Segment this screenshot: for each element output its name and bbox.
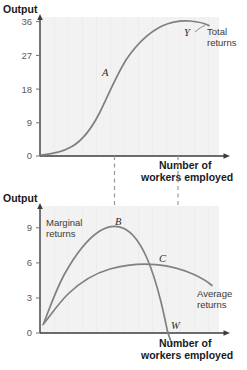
total-returns-label-line2: returns xyxy=(207,37,237,48)
bottom-y-tick-label-6: 6 xyxy=(27,257,32,268)
top-y-tick-label-0: 0 xyxy=(27,150,32,161)
bottom-x-axis-arrow-icon xyxy=(224,330,231,336)
marginal-average-returns-chart: Output 9 6 3 0 Marginal returns Average … xyxy=(3,192,233,361)
average-returns-label-line2: returns xyxy=(197,299,227,310)
returns-chart-svg: Output 36 27 18 9 0 A Y Total ret xyxy=(0,0,247,370)
point-label-B: B xyxy=(115,216,122,227)
top-x-axis-title-line2: workers employed xyxy=(140,171,233,183)
top-x-axis-arrow-icon xyxy=(224,153,231,159)
production-returns-figure: Output 36 27 18 9 0 A Y Total ret xyxy=(0,0,247,370)
marginal-returns-label-line2: returns xyxy=(46,228,76,239)
top-y-axis-title: Output xyxy=(3,3,38,15)
bottom-y-tick-label-9: 9 xyxy=(27,222,32,233)
total-returns-label-line1: Total xyxy=(207,26,227,37)
top-y-tick-label-9: 9 xyxy=(27,117,32,128)
bottom-y-axis-title: Output xyxy=(3,192,38,204)
top-y-tick-label-36: 36 xyxy=(21,16,32,27)
marginal-returns-label-line1: Marginal xyxy=(46,217,82,228)
top-y-tick-label-18: 18 xyxy=(21,84,32,95)
point-label-C: C xyxy=(159,253,167,264)
bottom-y-tick-label-0: 0 xyxy=(27,327,32,338)
bottom-x-axis-title-line1: Number of xyxy=(159,337,212,349)
top-y-tick-label-27: 27 xyxy=(21,50,32,61)
point-label-A: A xyxy=(101,67,109,78)
total-returns-chart: Output 36 27 18 9 0 A Y Total ret xyxy=(3,3,237,183)
top-plot-background xyxy=(40,17,219,156)
bottom-y-tick-label-3: 3 xyxy=(27,292,32,303)
point-label-W: W xyxy=(171,320,181,331)
top-x-axis-title-line1: Number of xyxy=(159,159,212,171)
bottom-x-axis-title-line2: workers employed xyxy=(140,349,233,361)
average-returns-label-line1: Average xyxy=(197,288,232,299)
